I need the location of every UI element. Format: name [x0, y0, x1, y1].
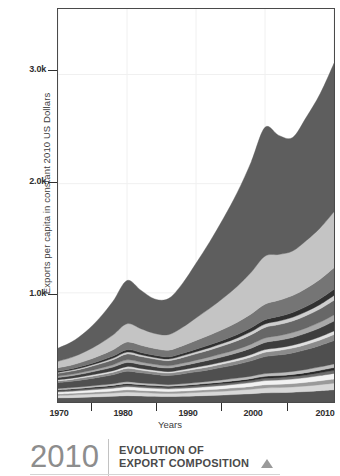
export-composition-chart: Exports per capita in constant 2010 US D…	[0, 0, 340, 476]
x-tick-label-2000: 2000	[229, 408, 277, 418]
y-tick-2000: 2.0k	[12, 176, 46, 188]
caption-line-2-row: EXPORT COMPOSITION	[119, 457, 273, 470]
chart-figure: Exports per capita in constant 2010 US D…	[0, 0, 340, 440]
x-tick-mark-4	[287, 403, 288, 411]
caption-line-1: EVOLUTION OF	[119, 444, 273, 457]
caption-line-2: EXPORT COMPOSITION	[119, 457, 249, 470]
y-tick-label-1000: 1.0k	[12, 288, 46, 298]
triangle-up-icon	[261, 459, 273, 468]
plot-area	[57, 8, 335, 403]
caption-underline	[30, 474, 280, 475]
caption-block: 2010 EVOLUTION OF EXPORT COMPOSITION	[30, 437, 280, 476]
y-tick-label-2000: 2.0k	[12, 176, 46, 186]
x-axis-title: Years	[0, 419, 340, 430]
y-tick-3000: 3.0k	[12, 64, 46, 76]
y-tick-1000: 1.0k	[12, 288, 46, 300]
caption-year: 2010	[30, 441, 108, 472]
stacked-area-plot	[58, 9, 334, 402]
y-tick-mark-2000	[48, 182, 57, 183]
x-tick-label-1970: 1970	[35, 408, 83, 418]
x-tick-mark-3	[221, 403, 222, 411]
x-tick-mark-1	[91, 403, 92, 411]
x-tick-mark-2	[156, 403, 157, 411]
caption-text: EVOLUTION OF EXPORT COMPOSITION	[109, 444, 273, 469]
y-tick-mark-3000	[48, 70, 57, 71]
x-tick-label-1980: 1980	[99, 408, 147, 418]
y-tick-mark-1000	[48, 294, 57, 295]
x-tick-label-1990: 1990	[164, 408, 212, 418]
x-tick-label-2010: 2010	[301, 408, 340, 418]
y-tick-label-3000: 3.0k	[12, 64, 46, 74]
